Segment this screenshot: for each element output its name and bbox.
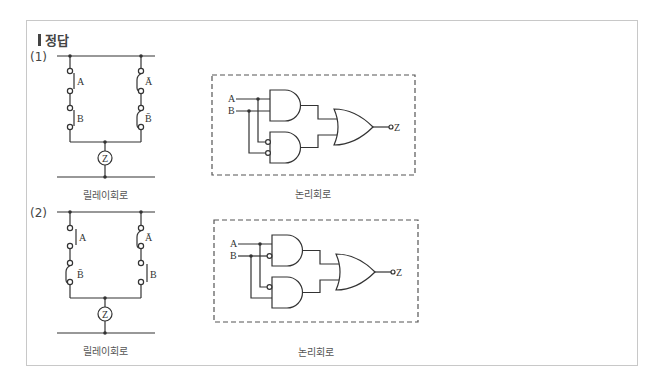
inverter-bubble — [267, 285, 272, 290]
or-gate — [334, 109, 373, 145]
contact-label: Ā — [145, 232, 153, 243]
problem-number-1: (1) — [30, 50, 47, 64]
contact-label: B — [77, 113, 84, 124]
and-gate-1 — [270, 90, 301, 121]
output-terminal — [389, 125, 393, 129]
and-gate-2 — [270, 132, 301, 163]
contact-terminal — [67, 68, 72, 73]
and-gate-1 — [272, 235, 302, 266]
input-label-a: A — [230, 238, 238, 249]
contact-label: B — [150, 269, 157, 280]
input-label-b: B — [230, 250, 237, 261]
logic-dashed-frame — [212, 75, 415, 175]
input-label-a: A — [228, 93, 236, 104]
contact-label: A — [79, 232, 87, 243]
coil-label: Z — [102, 153, 108, 164]
and-gate-2 — [272, 277, 303, 308]
relay-circuit-2: (2) A B̄ Ā B Z 릴레이회로 — [30, 206, 157, 357]
relay-caption: 릴레이회로 — [83, 189, 128, 201]
output-label-z: Z — [394, 122, 400, 133]
output-terminal — [391, 270, 395, 274]
or-gate — [336, 254, 375, 290]
output-label-z: Z — [396, 267, 402, 278]
inverter-bubble — [266, 151, 271, 156]
relay-caption: 릴레이회로 — [83, 345, 128, 357]
logic-circuit-2: A B Z 논리회로 — [214, 220, 418, 358]
contact-label: B̄ — [145, 113, 152, 124]
logic-caption: 논리회로 — [298, 347, 334, 358]
problem-number-2: (2) — [30, 206, 47, 220]
contact-label: Ā — [145, 76, 153, 87]
logic-dashed-frame — [214, 220, 418, 322]
contact-label: B̄ — [77, 269, 84, 280]
coil-label: Z — [102, 309, 108, 320]
input-label-b: B — [228, 105, 235, 116]
contact-label: A — [77, 76, 85, 87]
relay-circuit-1: (1) A B Ā B̄ Z 릴 — [30, 50, 155, 201]
inverter-bubble — [267, 254, 272, 259]
logic-caption: 논리회로 — [295, 189, 331, 200]
inverter-bubble — [266, 140, 271, 145]
circuit-diagrams: (1) A B Ā B̄ Z 릴 — [0, 0, 660, 387]
logic-circuit-1: A B Z 논리회로 — [212, 75, 415, 200]
